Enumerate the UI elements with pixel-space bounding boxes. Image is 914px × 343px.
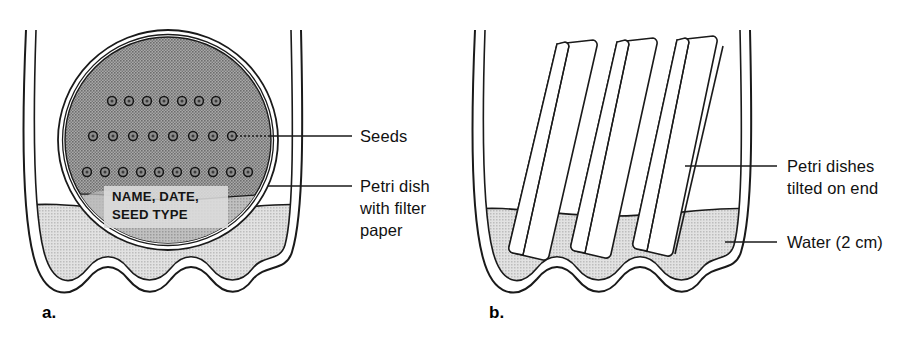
seed (129, 132, 138, 141)
seed (155, 168, 164, 177)
dish-caption-a: NAME, DATE, SEED TYPE (104, 186, 228, 228)
beaker-a: NAME, DATE, SEED TYPE (20, 30, 305, 310)
seed (109, 132, 118, 141)
dish-caption-line-2: SEED TYPE (112, 207, 188, 222)
callout-petri-dish-with-filter-paper: Petri dish with filter paper (268, 177, 430, 239)
seed (83, 168, 92, 177)
panel-a: NAME, DATE, SEED TYPE Seeds Petri dish w… (0, 0, 457, 343)
callout-water: Water (2 cm) (725, 233, 883, 251)
label-tilted-dishes-line-1: Petri dishes (787, 157, 874, 175)
seed (169, 132, 178, 141)
dish-caption-line-1: NAME, DATE, (112, 189, 199, 204)
seed (125, 97, 134, 106)
seed (228, 132, 237, 141)
seed (227, 168, 236, 177)
seed (137, 168, 146, 177)
seed (178, 97, 187, 106)
label-tilted-dishes-line-2: tilted on end (787, 179, 878, 197)
seed (143, 97, 152, 106)
seed (212, 97, 221, 106)
seed (89, 132, 98, 141)
label-water: Water (2 cm) (787, 233, 883, 251)
label-petri-dish-line-3: paper (360, 221, 403, 239)
panel-b: Petri dishes tilted on end Water (2 cm) … (457, 0, 914, 343)
seed (160, 97, 169, 106)
panel-a-illustration: NAME, DATE, SEED TYPE Seeds Petri dish w… (0, 0, 457, 343)
seed (209, 132, 218, 141)
seed (149, 132, 158, 141)
label-petri-dish-line-2: with filter (359, 199, 427, 217)
beaker-b (467, 30, 757, 312)
seed (209, 168, 218, 177)
panel-letter-a: a. (42, 303, 56, 322)
panel-b-illustration: Petri dishes tilted on end Water (2 cm) … (457, 0, 914, 343)
seed (244, 168, 253, 177)
label-seeds: Seeds (360, 127, 407, 145)
panel-letter-b: b. (489, 303, 504, 322)
seed (189, 132, 198, 141)
seed (108, 97, 117, 106)
seed (191, 168, 200, 177)
seed (195, 97, 204, 106)
seed (173, 168, 182, 177)
figure-root: NAME, DATE, SEED TYPE Seeds Petri dish w… (0, 0, 914, 343)
seed (101, 168, 110, 177)
seed (119, 168, 128, 177)
label-petri-dish-line-1: Petri dish (360, 177, 430, 195)
